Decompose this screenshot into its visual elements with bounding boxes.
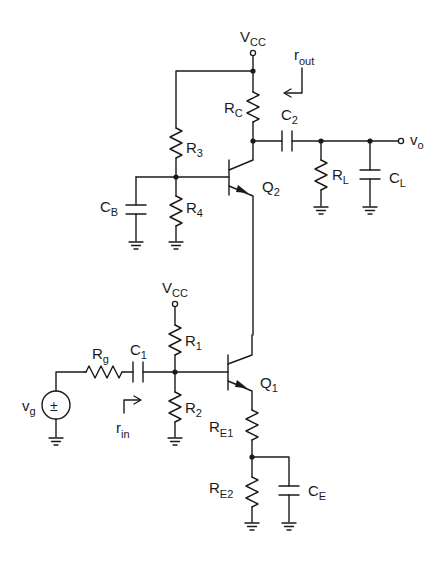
vg-label: vg — [22, 397, 36, 417]
capacitor-c2: C2 — [281, 106, 298, 151]
r-in-indicator: rin — [116, 396, 141, 440]
voltage-source-vg: ± vg — [22, 372, 85, 445]
r-in-label: rin — [116, 419, 130, 440]
resistor-rc: RC — [224, 71, 259, 141]
rc-label: RC — [224, 99, 243, 119]
transistor-q2: Q2 — [229, 141, 280, 335]
vcc-top-terminal: VCC — [240, 28, 266, 56]
cl-label: CL — [389, 169, 406, 189]
cb-label: CB — [100, 198, 118, 218]
r4-label: R4 — [186, 199, 203, 219]
vcc-bottom-label: VCC — [162, 279, 188, 299]
capacitor-cl: CL — [360, 141, 406, 214]
resistor-re2: RE2 — [209, 457, 259, 530]
rg-label: Rg — [92, 345, 109, 365]
resistor-rg: Rg — [85, 345, 133, 378]
vo-terminal: vo — [398, 131, 423, 151]
resistor-r4: R4 — [169, 177, 203, 249]
q2-label: Q2 — [262, 178, 280, 198]
plus-minus-icon: ± — [50, 398, 58, 414]
capacitor-ce: CE — [279, 482, 326, 530]
rl-label: RL — [332, 166, 349, 186]
wire-vcc-r3 — [176, 71, 253, 128]
re1-label: RE1 — [209, 418, 233, 439]
vcc-bottom-terminal: VCC — [162, 279, 188, 307]
capacitor-cb: CB — [100, 177, 146, 249]
resistor-r3: R3 — [170, 128, 203, 177]
resistor-rl: RL — [314, 141, 349, 214]
ce-label: CE — [308, 482, 326, 502]
r2-label: R2 — [185, 399, 202, 419]
vo-label: vo — [410, 131, 424, 151]
r-out-label: rout — [294, 46, 314, 67]
capacitor-c1: C1 — [130, 341, 147, 382]
transistor-q1: Q1 — [228, 335, 278, 410]
resistor-re1: RE1 — [209, 410, 258, 457]
c2-label: C2 — [281, 106, 298, 126]
resistor-r2: R2 — [168, 372, 202, 445]
q1-label: Q1 — [260, 374, 278, 394]
circuit-schematic: VCC RC rout C2 vo RL — [0, 0, 446, 561]
re2-label: RE2 — [209, 479, 233, 500]
resistor-r1: R1 — [169, 307, 202, 372]
c1-label: C1 — [130, 341, 147, 361]
r1-label: R1 — [185, 332, 202, 352]
r-out-indicator: rout — [284, 46, 314, 97]
r3-label: R3 — [186, 139, 203, 159]
vcc-top-label: VCC — [240, 28, 266, 48]
